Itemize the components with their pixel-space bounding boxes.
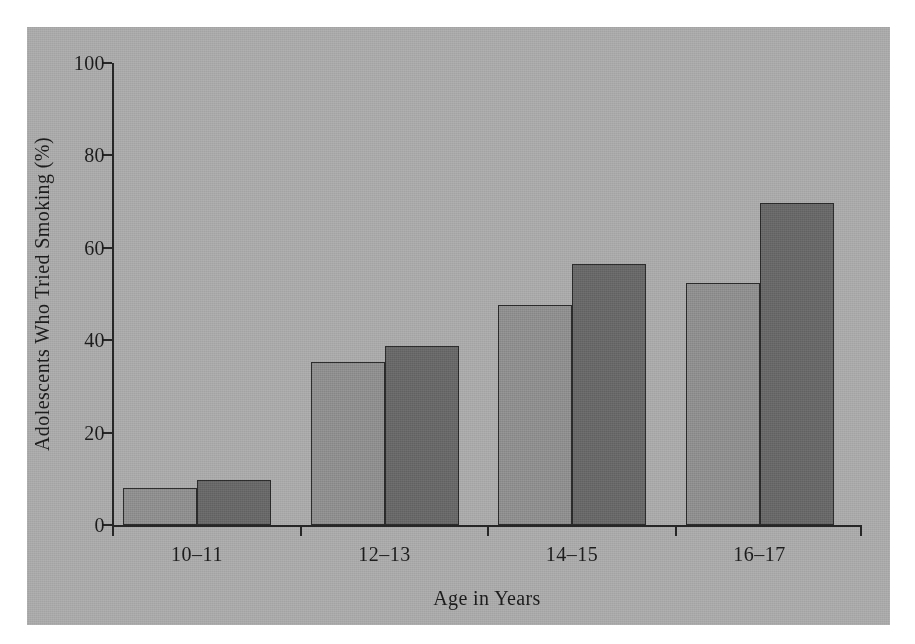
y-tick-label: 40 bbox=[84, 329, 105, 352]
y-tick-label: 20 bbox=[84, 421, 105, 444]
bar bbox=[760, 203, 834, 525]
plot-area: 020406080100 10–1112–1314–1516–17 Age in… bbox=[112, 63, 862, 525]
x-tick-mark bbox=[300, 525, 302, 536]
y-tick-label: 80 bbox=[84, 144, 105, 167]
bar bbox=[311, 362, 385, 525]
y-tick-label: 0 bbox=[95, 514, 105, 537]
chart-panel: 020406080100 10–1112–1314–1516–17 Age in… bbox=[27, 27, 890, 625]
scanned-figure-page: 020406080100 10–1112–1314–1516–17 Age in… bbox=[0, 0, 915, 644]
x-category-label: 14–15 bbox=[546, 543, 599, 566]
x-tick-mark bbox=[112, 525, 114, 536]
x-tick-mark bbox=[860, 525, 862, 536]
bar bbox=[686, 283, 760, 525]
x-category-label: 12–13 bbox=[358, 543, 411, 566]
x-tick-mark bbox=[675, 525, 677, 536]
y-axis-title: Adolescents Who Tried Smoking (%) bbox=[31, 137, 54, 451]
y-axis-line bbox=[112, 63, 114, 525]
y-tick-label: 60 bbox=[84, 236, 105, 259]
bar bbox=[197, 480, 271, 525]
bar bbox=[498, 305, 572, 525]
x-tick-mark bbox=[487, 525, 489, 536]
bar bbox=[572, 264, 646, 525]
x-category-label: 10–11 bbox=[171, 543, 223, 566]
x-category-label: 16–17 bbox=[733, 543, 786, 566]
x-axis-title: Age in Years bbox=[112, 587, 862, 610]
bar bbox=[123, 488, 197, 525]
y-tick-label: 100 bbox=[74, 52, 105, 75]
bar bbox=[385, 346, 459, 525]
